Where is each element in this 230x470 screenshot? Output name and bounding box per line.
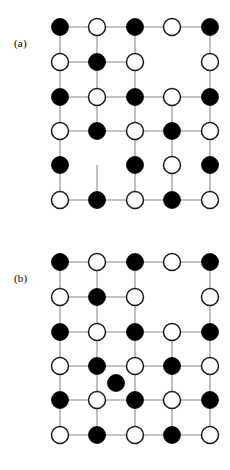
lattice-node-filled [127,324,144,341]
panel-a: (a) [0,0,230,235]
lattice-node-open [164,392,181,409]
lattice-node-filled [202,254,219,271]
lattice-node-filled [89,289,106,306]
lattice-node-open [52,427,69,444]
lattice-node-open [52,358,69,375]
lattice-node-filled [164,123,181,140]
lattice-node-filled [127,254,144,271]
lattice-node-open [202,54,219,71]
lattice-node-open [52,54,69,71]
lattice-node-filled [202,324,219,341]
lattice-node-open [164,19,181,36]
lattice-node-filled [89,427,106,444]
lattice-node-filled [164,358,181,375]
lattice-node-open [89,89,106,106]
lattice-node-open [202,192,219,209]
lattice-node-filled [89,358,106,375]
lattice-node-filled [164,427,181,444]
lattice-diagram-b [0,235,230,470]
lattice-node-open [202,427,219,444]
lattice-node-open [127,54,144,71]
lattice-node-filled [202,392,219,409]
lattice-node-open [202,358,219,375]
lattice-node-open [89,254,106,271]
lattice-node-open [127,289,144,306]
lattice-node-interstitial-filled [108,375,125,392]
lattice-node-filled [89,192,106,209]
lattice-node-open [164,89,181,106]
lattice-node-open [202,123,219,140]
lattice-node-open [202,289,219,306]
lattice-node-filled [52,324,69,341]
lattice-node-open [127,192,144,209]
figure-container: (a) (b) [0,0,230,470]
lattice-node-open [164,157,181,174]
lattice-node-open [52,123,69,140]
lattice-node-filled [127,19,144,36]
lattice-node-filled [52,254,69,271]
lattice-node-filled [52,157,69,174]
lattice-node-open [52,192,69,209]
lattice-node-filled [127,89,144,106]
panel-b: (b) [0,235,230,470]
lattice-node-open [127,123,144,140]
lattice-node-filled [202,19,219,36]
lattice-node-filled [202,89,219,106]
lattice-node-filled [202,157,219,174]
lattice-node-open [127,358,144,375]
lattice-node-filled [52,89,69,106]
lattice-node-open [89,19,106,36]
lattice-node-filled [89,54,106,71]
lattice-node-open [89,392,106,409]
lattice-node-open [164,254,181,271]
lattice-node-open [164,324,181,341]
lattice-node-filled [127,157,144,174]
lattice-diagram-a [0,0,230,235]
lattice-node-open [89,324,106,341]
lattice-node-filled [164,192,181,209]
lattice-node-open [52,289,69,306]
lattice-node-filled [52,19,69,36]
lattice-node-open [127,427,144,444]
lattice-node-filled [127,392,144,409]
lattice-node-filled [52,392,69,409]
lattice-node-filled [89,123,106,140]
